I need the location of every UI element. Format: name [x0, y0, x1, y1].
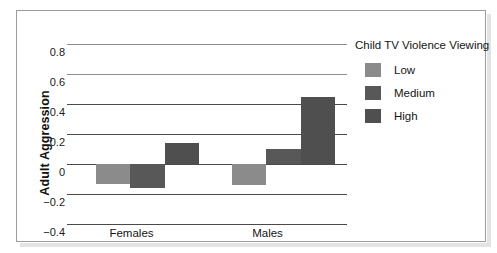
legend-title: Child TV Violence Viewing	[355, 39, 495, 51]
bar-females-low	[96, 164, 130, 184]
bar-males-low	[232, 164, 266, 185]
bar-males-medium	[266, 149, 300, 164]
gridline	[67, 74, 347, 75]
legend-label-medium: Medium	[394, 87, 435, 99]
chart-legend: Child TV Violence Viewing LowMediumHigh	[355, 39, 495, 127]
chart-figure-frame: Adult Aggression 0.80.60.40.20−0.2−0.4 F…	[16, 10, 486, 242]
category-label-males: Males	[216, 227, 319, 239]
bar-females-medium	[130, 164, 164, 188]
y-tick-label: −0.4	[43, 226, 67, 238]
y-tick-label: 0.2	[50, 136, 67, 148]
legend-item-high: High	[355, 104, 495, 127]
y-tick-label: −0.2	[43, 196, 67, 208]
legend-swatch-high	[365, 109, 381, 123]
legend-label-low: Low	[394, 64, 415, 76]
category-label-females: Females	[80, 227, 183, 239]
x-axis-line	[67, 224, 347, 225]
legend-swatch-low	[365, 63, 381, 77]
y-tick-label: 0.8	[50, 46, 67, 58]
plot-area: 0.80.60.40.20−0.2−0.4	[67, 44, 347, 224]
gridline	[67, 44, 347, 45]
legend-swatch-medium	[365, 86, 381, 100]
legend-item-low: Low	[355, 58, 495, 81]
y-tick-label: 0.4	[50, 106, 67, 118]
bar-males-high	[301, 97, 335, 165]
gridline	[67, 194, 347, 195]
y-tick-label: 0	[59, 166, 67, 178]
bar-females-high	[165, 143, 199, 164]
y-tick-label: 0.6	[50, 76, 67, 88]
legend-rows-group: LowMediumHigh	[355, 58, 495, 127]
figure-shadow-bottom	[20, 243, 491, 247]
legend-label-high: High	[394, 110, 418, 122]
legend-item-medium: Medium	[355, 81, 495, 104]
